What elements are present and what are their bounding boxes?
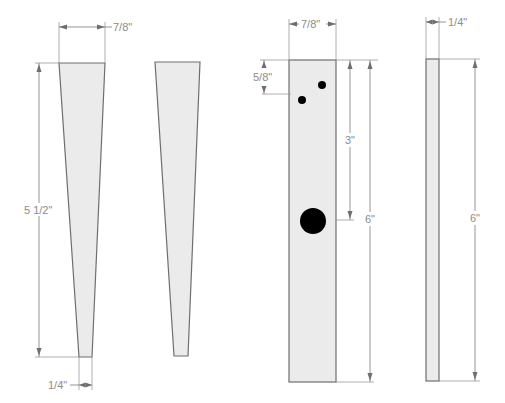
arrow-down-icon (37, 348, 42, 356)
arrow-up-icon (368, 61, 373, 69)
leg-bottom-width-label: 1/4" (48, 379, 67, 391)
board-large-hole-dimension: 3" (336, 60, 378, 220)
board-width-label: 7/8" (301, 18, 320, 30)
small-hole-1 (318, 81, 326, 89)
thin-strip: 1/4" 6" (426, 16, 480, 381)
board-width-dimension: 7/8" (289, 18, 336, 60)
arrow-left-icon (79, 383, 86, 388)
arrow-up-icon (37, 64, 42, 72)
large-hole (300, 208, 326, 234)
leg-top-width-dimension: 7/8" (59, 21, 132, 63)
arrow-up-icon (473, 60, 478, 68)
arrow-down-icon (368, 373, 373, 381)
thin-strip-shape (426, 59, 439, 381)
drilled-board: 7/8" 5/8" 3" 6" (253, 18, 378, 382)
tapered-leg-2-shape (155, 62, 200, 356)
arrow-down-icon (473, 372, 478, 380)
leg-length-label: 5 1/2" (24, 204, 52, 216)
arrow-right-icon (328, 22, 336, 27)
board-length-dimension: 6" (336, 60, 375, 382)
board-length-label: 6" (365, 213, 375, 225)
strip-length-dimension: 6" (439, 59, 480, 381)
board-hole-offset-dimension: 5/8" (253, 60, 291, 94)
board-hole-offset-label: 5/8" (253, 71, 272, 83)
arrow-right-icon (86, 383, 93, 388)
arrow-down-icon (348, 211, 353, 219)
strip-thickness-dimension: 1/4" (426, 16, 467, 59)
part-drawing: 7/8" 5 1/2" 1/4" (0, 0, 505, 403)
tapered-leg-1-shape (59, 63, 105, 357)
tapered-leg-1: 7/8" 5 1/2" 1/4" (24, 21, 132, 391)
leg-bottom-width-dimension: 1/4" (48, 357, 92, 391)
arrow-left-icon (59, 25, 67, 30)
arrow-up-icon (262, 61, 267, 68)
arrow-right-icon (97, 25, 105, 30)
arrow-left-icon (426, 20, 433, 25)
leg-top-width-label: 7/8" (113, 21, 132, 33)
small-hole-2 (298, 96, 306, 104)
board-large-hole-label: 3" (345, 134, 355, 146)
arrow-right-icon (433, 20, 440, 25)
arrow-up-icon (348, 61, 353, 69)
arrow-down-icon (262, 86, 267, 93)
tapered-leg-2 (155, 62, 200, 356)
strip-length-label: 6" (470, 212, 480, 224)
strip-thickness-label: 1/4" (448, 16, 467, 28)
arrow-left-icon (289, 22, 297, 27)
